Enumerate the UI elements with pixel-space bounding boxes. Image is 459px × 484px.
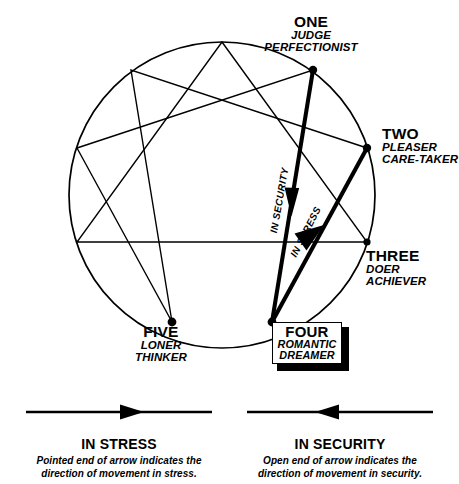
label-four-box: FOUR ROMANTIC DREAMER [272,322,342,364]
arrowhead-security [285,188,300,217]
label-two-trait-2: CARE-TAKER [382,154,458,166]
label-three-trait-2: ACHIEVER [366,276,426,288]
inner-triangle [77,42,367,242]
hexad-path [77,70,367,322]
legend-arrow-security-icon [245,404,435,420]
label-one-trait-2: PERFECTIONIST [264,42,357,54]
enneagram-circle [69,42,375,348]
label-five-name: FIVE [135,324,187,340]
label-three: THREE DOER ACHIEVER [366,248,426,288]
legend: IN STRESS Pointed end of arrow indicates… [0,404,459,484]
label-five-trait-2: THINKER [135,352,187,364]
label-three-name: THREE [366,248,426,264]
legend-stress-desc-1: Pointed end of arrow indicates the [8,455,230,468]
label-four-trait-2: DREAMER [273,350,341,361]
legend-in-stress: IN STRESS Pointed end of arrow indicates… [8,404,230,480]
label-one: ONE JUDGE PERFECTIONIST [264,14,357,54]
label-two: TWO PLEASER CARE-TAKER [382,126,458,166]
enneagram-diagram: ONE JUDGE PERFECTIONIST TWO PLEASER CARE… [0,0,459,484]
label-one-name: ONE [264,14,357,30]
legend-security-desc-2: direction of movement in security. [229,468,451,481]
legend-in-security: IN SECURITY Open end of arrow indicates … [229,404,451,480]
legend-security-desc-1: Open end of arrow indicates the [229,455,451,468]
legend-security-title: IN SECURITY [229,436,451,452]
label-five: FIVE LONER THINKER [135,324,187,364]
vertex-dot-three [363,238,370,245]
label-two-name: TWO [382,126,458,142]
legend-arrow-stress-icon [24,404,214,420]
legend-stress-title: IN STRESS [8,436,230,452]
arrow-in-security [0,11,313,322]
label-four-name: FOUR [273,324,341,339]
legend-stress-desc-2: direction of movement in stress. [8,468,230,481]
